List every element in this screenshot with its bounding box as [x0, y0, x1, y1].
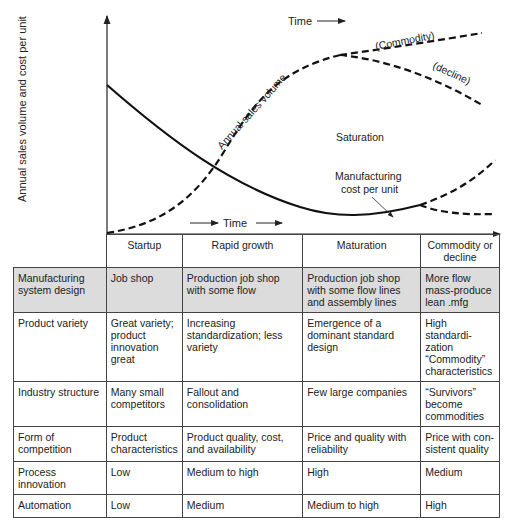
table-cell: High: [421, 495, 500, 518]
table-cell: High standardi- zation “Commodity” chara…: [421, 313, 500, 382]
table-cell: Medium: [182, 495, 302, 518]
table-cell: Increasing standardization; less variety: [182, 313, 302, 382]
header-empty: [14, 235, 107, 268]
table-cell: Job shop: [106, 268, 182, 313]
table-cell: Production job shop with some flow: [182, 268, 302, 313]
table-row: Manufacturing system design Job shop Pro…: [14, 268, 500, 313]
header-startup: Startup: [106, 235, 182, 268]
table-row: Process innovation Low Medium to high Hi…: [14, 462, 500, 495]
table-cell: Fallout and consolidation: [182, 382, 302, 427]
lifecycle-chart: Time Time Annual sales volume (Commodity…: [0, 0, 515, 240]
table-cell: Production job shop with some flow lines…: [303, 268, 421, 313]
header-commodity: Commodity or decline: [421, 235, 500, 268]
commodity-label: (Commodity): [374, 29, 435, 52]
cost-label-line1: Manufacturing: [335, 170, 402, 182]
cost-label-line2: cost per unit: [341, 183, 398, 195]
table-cell: Few large companies: [303, 382, 421, 427]
table-cell: Great variety; product innovation great: [106, 313, 182, 382]
table-cell: Emergence of a dominant standard design: [303, 313, 421, 382]
table-cell: Medium to high: [303, 495, 421, 518]
table-row: Automation Low Medium Medium to high Hig…: [14, 495, 500, 518]
row-label: Automation: [14, 495, 107, 518]
table-cell: Product quality, cost, and availability: [182, 427, 302, 462]
row-label: Form of competition: [14, 427, 107, 462]
table-cell: Low: [106, 495, 182, 518]
table-cell: High: [303, 462, 421, 495]
table-cell: More flow mass-produce lean .mfg: [421, 268, 500, 313]
table-row: Product variety Great variety; product i…: [14, 313, 500, 382]
table-row: Industry structure Many small competitor…: [14, 382, 500, 427]
row-label: Industry structure: [14, 382, 107, 427]
table-cell: Price with con- sistent quality: [421, 427, 500, 462]
table-cell: Many small competitors: [106, 382, 182, 427]
table-cell: “Survivors” become commodities: [421, 382, 500, 427]
table-cell: Medium to high: [182, 462, 302, 495]
cost-commodity-branch: [420, 160, 495, 205]
table-cell: Price and quality with reliability: [303, 427, 421, 462]
header-maturation: Maturation: [303, 235, 421, 268]
row-label: Product variety: [14, 313, 107, 382]
row-label: Process innovation: [14, 462, 107, 495]
header-rapid-growth: Rapid growth: [182, 235, 302, 268]
cost-decline-branch: [420, 205, 495, 214]
table-cell: Medium: [421, 462, 500, 495]
lifecycle-table: Startup Rapid growth Maturation Commodit…: [13, 234, 500, 518]
y-axis-label: Annual sales volume and cost per unit: [16, 32, 30, 202]
saturation-label: Saturation: [336, 131, 384, 143]
time-label-bottom: Time: [223, 217, 247, 229]
header-row: Startup Rapid growth Maturation Commodit…: [14, 235, 500, 268]
table-cell: Product characteristics: [106, 427, 182, 462]
time-label-top: Time: [288, 15, 312, 27]
table-row: Form of competition Product characterist…: [14, 427, 500, 462]
row-label: Manufacturing system design: [14, 268, 107, 313]
table-cell: Low: [106, 462, 182, 495]
sales-label: Annual sales volume: [215, 71, 289, 151]
